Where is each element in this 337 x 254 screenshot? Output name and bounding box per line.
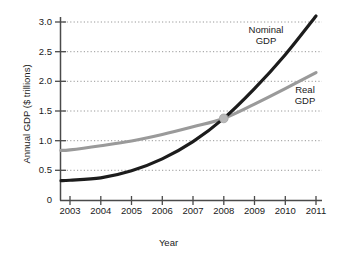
series-annotation-nominal-line1: Nominal bbox=[239, 24, 293, 35]
x-axis-title: Year bbox=[159, 237, 178, 248]
x-tick-label-2005: 2005 bbox=[115, 206, 149, 216]
x-tick-label-2009: 2009 bbox=[238, 206, 272, 216]
series-annotation-nominal-gdp: Nominal GDP bbox=[239, 24, 293, 46]
x-tick-label-2006: 2006 bbox=[145, 206, 179, 216]
x-tick-label-2011: 2011 bbox=[299, 206, 333, 216]
series-line-real-gdp bbox=[61, 73, 316, 151]
y-tick-label-0: 0 bbox=[22, 195, 52, 205]
gdp-line-chart: 3.0 2.5 2.0 1.5 1.0 0.5 0 2003 2004 2005… bbox=[0, 0, 337, 254]
y-axis-title-wrapper: Annual GDP ($ trillions) bbox=[16, 34, 34, 194]
x-tick-label-2008: 2008 bbox=[207, 206, 241, 216]
x-tick-label-2004: 2004 bbox=[84, 206, 118, 216]
x-tick-label-2007: 2007 bbox=[176, 206, 210, 216]
series-annotation-real-gdp: Real GDP bbox=[283, 84, 327, 106]
series-annotation-real-line1: Real bbox=[283, 84, 327, 95]
intersection-marker bbox=[219, 114, 228, 123]
x-tick-label-2003: 2003 bbox=[53, 206, 87, 216]
y-tick-label-3-0: 3.0 bbox=[22, 17, 52, 27]
y-axis-title: Annual GDP ($ trillions) bbox=[21, 64, 32, 163]
x-axis-title-wrapper: Year bbox=[0, 232, 337, 250]
series-annotation-nominal-line2: GDP bbox=[239, 35, 293, 46]
x-tick-label-2010: 2010 bbox=[268, 206, 302, 216]
series-annotation-real-line2: GDP bbox=[283, 95, 327, 106]
